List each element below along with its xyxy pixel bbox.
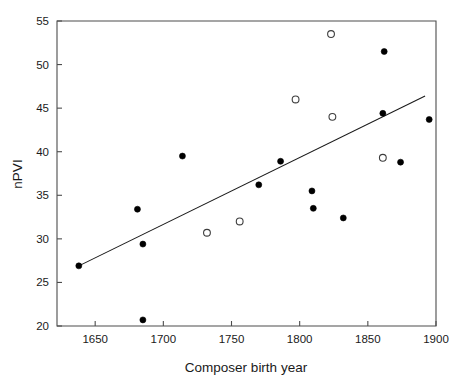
data-point bbox=[426, 116, 432, 122]
x-tick-label-1900: 1900 bbox=[423, 333, 449, 345]
data-point bbox=[380, 110, 386, 116]
data-point bbox=[381, 49, 387, 55]
data-point bbox=[310, 205, 316, 211]
y-tick-label-35: 35 bbox=[36, 189, 49, 201]
data-point bbox=[256, 182, 262, 188]
x-tick-label-1800: 1800 bbox=[287, 333, 313, 345]
data-point bbox=[140, 241, 146, 247]
y-tick-label-45: 45 bbox=[36, 102, 49, 114]
data-point bbox=[278, 158, 284, 164]
data-point bbox=[398, 159, 404, 165]
y-tick-label-55: 55 bbox=[36, 15, 49, 27]
y-axis-label: nPVI bbox=[10, 159, 25, 188]
x-tick-label-1700: 1700 bbox=[151, 333, 177, 345]
x-axis-label: Composer birth year bbox=[185, 360, 308, 375]
x-tick-label-1750: 1750 bbox=[219, 333, 245, 345]
data-point bbox=[134, 206, 140, 212]
data-point bbox=[340, 215, 346, 221]
x-tick-label-1850: 1850 bbox=[355, 333, 381, 345]
data-point bbox=[76, 263, 82, 269]
x-tick-label-1650: 1650 bbox=[82, 333, 108, 345]
y-tick-label-40: 40 bbox=[36, 146, 49, 158]
data-point bbox=[309, 188, 315, 194]
y-tick-label-50: 50 bbox=[36, 59, 49, 71]
y-tick-label-25: 25 bbox=[36, 276, 49, 288]
data-point bbox=[179, 153, 185, 159]
plot-area bbox=[57, 21, 436, 326]
data-point bbox=[140, 317, 146, 323]
y-tick-label-30: 30 bbox=[36, 233, 49, 245]
y-tick-label-20: 20 bbox=[36, 320, 49, 332]
plot-background bbox=[57, 21, 436, 326]
scatter-plot-figure: 165017001750180018501900 202530354045505… bbox=[0, 0, 458, 388]
